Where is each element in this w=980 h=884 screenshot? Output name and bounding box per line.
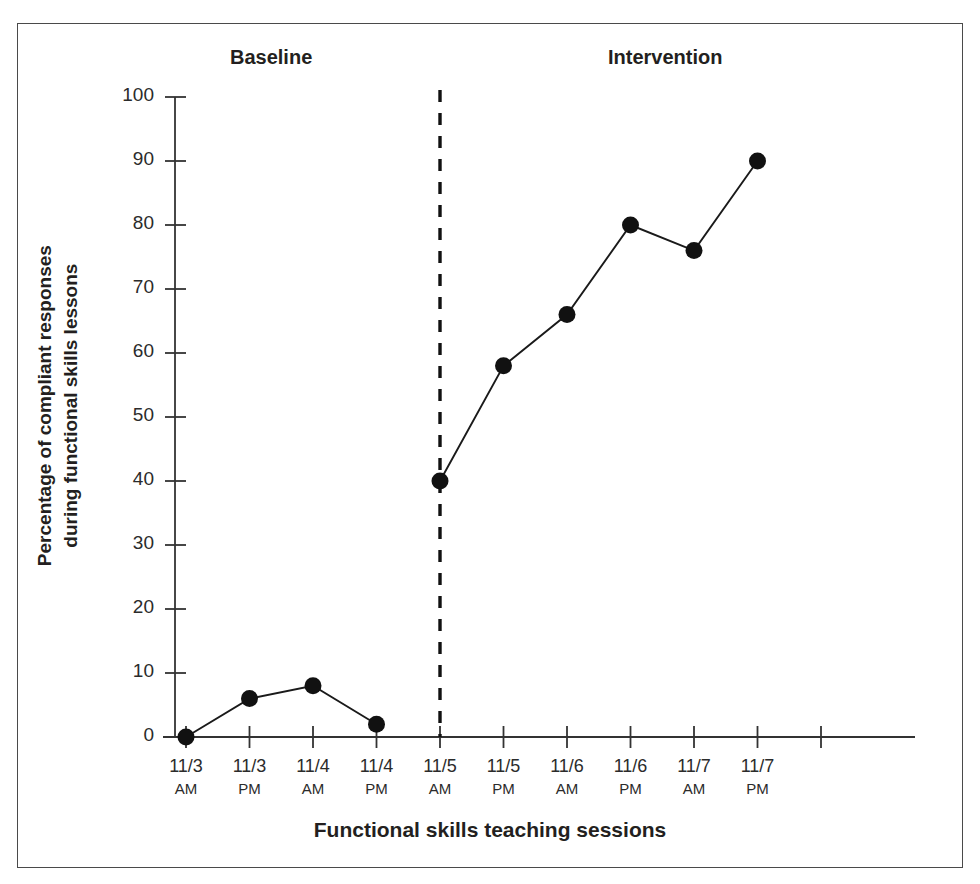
x-tick-time-of-day: AM — [278, 780, 348, 799]
x-axis-tick-label: 11/5AM — [405, 755, 475, 798]
x-tick-time-of-day: AM — [405, 780, 475, 799]
data-point-marker — [622, 217, 639, 234]
data-point-marker — [749, 153, 766, 170]
series-intervention — [432, 153, 767, 490]
chart-figure: Baseline Intervention 010203040506070809… — [0, 0, 980, 884]
chart-plot-area — [0, 0, 980, 884]
data-point-marker — [368, 716, 385, 733]
x-tick-time-of-day: PM — [469, 780, 539, 799]
y-axis-title-line2: during functional skills lessons — [58, 176, 84, 636]
x-tick-date: 11/4 — [360, 756, 394, 776]
data-point-marker — [178, 729, 195, 746]
x-tick-time-of-day: AM — [659, 780, 729, 799]
series-line — [440, 161, 758, 481]
data-point-marker — [241, 690, 258, 707]
series-baseline — [178, 677, 386, 745]
y-axis-tick-label: 40 — [108, 468, 154, 490]
x-tick-time-of-day: PM — [723, 780, 793, 799]
x-axis-tick-label: 11/5PM — [469, 755, 539, 798]
y-axis-title: Percentage of compliant responses during… — [32, 176, 83, 636]
y-axis-tick-label: 70 — [108, 276, 154, 298]
y-axis-tick-label: 50 — [108, 404, 154, 426]
y-axis-tick-label: 20 — [108, 596, 154, 618]
x-tick-date: 11/3 — [169, 756, 203, 776]
x-tick-date: 11/7 — [741, 756, 775, 776]
x-tick-time-of-day: PM — [215, 780, 285, 799]
x-axis-title: Functional skills teaching sessions — [0, 818, 980, 842]
y-axis — [165, 97, 186, 737]
y-axis-tick-label: 30 — [108, 532, 154, 554]
x-tick-date: 11/6 — [614, 756, 648, 776]
x-axis-tick-label: 11/6AM — [532, 755, 602, 798]
y-axis-tick-label: 90 — [108, 148, 154, 170]
x-axis-tick-label: 11/4PM — [342, 755, 412, 798]
data-point-marker — [305, 677, 322, 694]
y-axis-title-line1: Percentage of compliant responses — [32, 176, 58, 636]
data-point-marker — [559, 306, 576, 323]
y-axis-tick-label: 10 — [108, 660, 154, 682]
data-point-marker — [432, 473, 449, 490]
x-tick-time-of-day: AM — [151, 780, 221, 799]
x-tick-date: 11/6 — [550, 756, 584, 776]
x-axis-tick-label: 11/3AM — [151, 755, 221, 798]
x-tick-date: 11/7 — [677, 756, 711, 776]
x-tick-time-of-day: AM — [532, 780, 602, 799]
x-axis-tick-label: 11/3PM — [215, 755, 285, 798]
y-axis-tick-label: 80 — [108, 212, 154, 234]
x-tick-date: 11/4 — [296, 756, 330, 776]
x-axis-tick-label: 11/6PM — [596, 755, 666, 798]
x-axis-tick-label: 11/4AM — [278, 755, 348, 798]
x-axis-tick-label: 11/7AM — [659, 755, 729, 798]
x-tick-date: 11/5 — [487, 756, 521, 776]
y-axis-tick-label: 60 — [108, 340, 154, 362]
data-point-marker — [686, 242, 703, 259]
y-axis-tick-label: 100 — [108, 84, 154, 106]
x-tick-date: 11/3 — [233, 756, 267, 776]
y-axis-tick-label: 0 — [108, 724, 154, 746]
x-axis — [163, 726, 915, 748]
x-tick-time-of-day: PM — [342, 780, 412, 799]
x-axis-tick-label: 11/7PM — [723, 755, 793, 798]
x-tick-time-of-day: PM — [596, 780, 666, 799]
x-tick-date: 11/5 — [423, 756, 457, 776]
series-line — [186, 686, 377, 737]
data-point-marker — [495, 357, 512, 374]
